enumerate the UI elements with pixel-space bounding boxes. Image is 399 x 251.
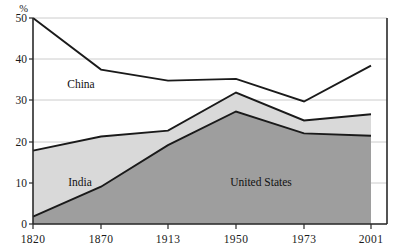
x-tick-label-1870: 1870 (89, 233, 114, 245)
share-of-world-gdp-area-chart: % 0 10 20 30 40 50 1820 1870 1913 1950 1… (0, 0, 399, 251)
x-tick-label-2001: 2001 (359, 233, 384, 245)
series-label-india: India (68, 176, 92, 188)
chart-figure: % 0 10 20 30 40 50 1820 1870 1913 1950 1… (0, 0, 399, 251)
series-label-china: China (67, 78, 94, 90)
x-tick-label-1973: 1973 (292, 233, 317, 245)
y-tick-label-30: 30 (16, 94, 28, 106)
y-tick-label-10: 10 (16, 177, 28, 189)
x-tick-label-1913: 1913 (156, 233, 181, 245)
series-label-united-states: United States (230, 176, 292, 188)
y-tick-label-40: 40 (16, 53, 28, 65)
x-tick-label-1820: 1820 (21, 233, 46, 245)
y-tick-label-20: 20 (16, 136, 28, 148)
y-tick-label-50: 50 (16, 12, 28, 24)
x-tick-label-1950: 1950 (224, 233, 249, 245)
y-tick-label-0: 0 (21, 218, 27, 230)
